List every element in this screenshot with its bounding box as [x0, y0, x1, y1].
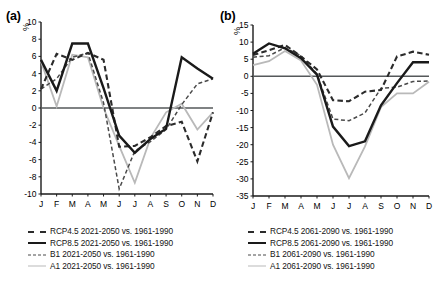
- panel-a-legend: RCP4.5 2021-2050 vs. 1961-1990 RCP8.5 20…: [0, 226, 219, 284]
- y-tick-label: -10: [236, 106, 249, 116]
- legend-swatch-a1-icon: [28, 261, 46, 273]
- panel-a-label: (a): [6, 9, 21, 23]
- y-tick-label: -30: [236, 174, 249, 184]
- legend-label: A1 2061-2090 vs. 1961-1990: [270, 261, 374, 273]
- legend-label: B1 2061-2090 vs. 1961-1990: [270, 249, 374, 261]
- y-tick-label: 5: [244, 54, 249, 64]
- y-tick-label: 8: [32, 34, 37, 44]
- legend-label: B1 2021-2050 vs. 1961-1990: [50, 249, 154, 261]
- y-tick-label: -6: [29, 155, 37, 165]
- y-tick-label: -8: [29, 172, 37, 182]
- x-tick-label: A: [362, 201, 368, 211]
- y-tick-label: -25: [236, 157, 249, 167]
- y-tick-label: -4: [29, 137, 37, 147]
- legend-swatch-b1-icon: [248, 249, 266, 261]
- panel-b-svg: 151050-5-10-15-20-25-30-35 JFMAMJJASOND: [253, 25, 429, 196]
- legend-item: B1 2021-2050 vs. 1961-1990: [28, 249, 219, 261]
- legend-item: A1 2021-2050 vs. 1961-1990: [28, 261, 219, 273]
- legend-label: RCP8.5 2061-2090 vs. 1961-1990: [270, 238, 393, 250]
- panel-a-svg: 1086420-2-4-6-8-10 JFMAMJJASOND: [41, 22, 213, 194]
- panel-b-x-axis-ticks: JFMAMJJASOND: [251, 196, 432, 211]
- y-tick-label: 6: [32, 51, 37, 61]
- series-line: [41, 55, 213, 183]
- x-tick-label: N: [194, 199, 200, 209]
- x-tick-label: J: [133, 199, 137, 209]
- legend-swatch-rcp45-icon: [28, 226, 46, 238]
- panel-b-series-group: [253, 43, 429, 178]
- legend-item: RCP8.5 2061-2090 vs. 1961-1990: [248, 238, 439, 250]
- series-line: [253, 51, 429, 178]
- chart-panel-a: (a) % 1086420-2-4-6-8-10 JFMAMJJASOND: [0, 0, 219, 224]
- y-tick-label: 4: [32, 69, 37, 79]
- x-tick-label: J: [331, 201, 335, 211]
- x-tick-label: M: [69, 199, 76, 209]
- y-tick-label: 0: [32, 103, 37, 113]
- legend-item: A1 2061-2090 vs. 1961-1990: [248, 261, 439, 273]
- legend-label: RCP8.5 2021-2050 vs. 1961-1990: [50, 238, 173, 250]
- x-tick-label: M: [100, 199, 107, 209]
- legend-item: RCP4.5 2021-2050 vs. 1961-1990: [28, 226, 219, 238]
- x-tick-label: S: [163, 199, 169, 209]
- legend-label: RCP4.5 2061-2090 vs. 1961-1990: [270, 226, 393, 238]
- panel-a-plot-area: 1086420-2-4-6-8-10 JFMAMJJASOND: [41, 22, 213, 194]
- x-tick-label: O: [394, 201, 401, 211]
- chart-panel-b: (b) % 151050-5-10-15-20-25-30-35 JFMAMJJ…: [214, 0, 439, 224]
- x-tick-label: A: [85, 199, 91, 209]
- x-tick-label: J: [39, 199, 43, 209]
- panel-b-y-axis-ticks: 151050-5-10-15-20-25-30-35: [236, 20, 253, 201]
- panel-b-label: (b): [220, 9, 235, 23]
- x-tick-label: J: [251, 201, 255, 211]
- y-tick-label: 15: [239, 20, 249, 30]
- legend-swatch-rcp85-icon: [248, 238, 266, 250]
- y-tick-label: -2: [29, 120, 37, 130]
- panel-b-plot-area: 151050-5-10-15-20-25-30-35 JFMAMJJASOND: [253, 25, 429, 196]
- x-tick-label: F: [266, 201, 271, 211]
- y-tick-label: -20: [236, 140, 249, 150]
- y-tick-label: -15: [236, 123, 249, 133]
- x-tick-label: D: [426, 201, 432, 211]
- y-tick-label: 0: [244, 71, 249, 81]
- y-tick-label: 10: [239, 37, 249, 47]
- x-tick-label: A: [298, 201, 304, 211]
- legend-label: A1 2021-2050 vs. 1961-1990: [50, 261, 154, 273]
- legend-label: RCP4.5 2021-2050 vs. 1961-1990: [50, 226, 173, 238]
- legend-swatch-b1-icon: [28, 249, 46, 261]
- y-tick-label: -10: [24, 189, 37, 199]
- legend-swatch-a1-icon: [248, 261, 266, 273]
- y-tick-label: -35: [236, 191, 249, 201]
- x-tick-label: M: [281, 201, 288, 211]
- legend-swatch-rcp85-icon: [28, 238, 46, 250]
- series-line: [253, 43, 429, 146]
- panel-a-x-axis-ticks: JFMAMJJASOND: [39, 194, 216, 209]
- y-tick-label: 2: [32, 86, 37, 96]
- x-tick-label: J: [347, 201, 351, 211]
- panel-a-y-axis-ticks: 1086420-2-4-6-8-10: [24, 17, 41, 199]
- legend-swatch-rcp45-icon: [248, 226, 266, 238]
- y-tick-label: -5: [241, 88, 249, 98]
- legend-item: RCP4.5 2061-2090 vs. 1961-1990: [248, 226, 439, 238]
- figure-root: (a) % 1086420-2-4-6-8-10 JFMAMJJASOND (b…: [0, 0, 439, 284]
- panel-b-legend: RCP4.5 2061-2090 vs. 1961-1990 RCP8.5 20…: [214, 226, 439, 284]
- legend-item: B1 2061-2090 vs. 1961-1990: [248, 249, 439, 261]
- x-tick-label: N: [410, 201, 416, 211]
- x-tick-label: J: [117, 199, 121, 209]
- panel-a-series-group: [41, 44, 213, 189]
- y-tick-label: 10: [27, 17, 37, 27]
- legend-item: RCP8.5 2021-2050 vs. 1961-1990: [28, 238, 219, 250]
- x-tick-label: A: [148, 199, 154, 209]
- x-tick-label: M: [313, 201, 320, 211]
- x-tick-label: O: [178, 199, 185, 209]
- series-line: [253, 48, 429, 121]
- x-tick-label: F: [54, 199, 59, 209]
- x-tick-label: S: [378, 201, 384, 211]
